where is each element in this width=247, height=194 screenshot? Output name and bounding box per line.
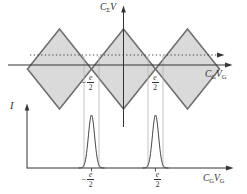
top-tick-pos-numerator: e <box>153 74 156 82</box>
top-y-axis-label-v: V <box>110 2 116 12</box>
top-x-axis-label-v: V <box>216 69 222 79</box>
top-tick-neg-numerator: e <box>89 74 92 82</box>
current-vertical-axis-arrowhead <box>25 104 30 111</box>
bottom-tick-neg-denominator: 2 <box>89 181 93 189</box>
top-vertical-axis-arrowhead <box>121 6 126 13</box>
bottom-tick-pos-numerator: e <box>156 171 159 179</box>
bottom-y-axis-label: I <box>10 100 14 111</box>
top-tick-pos-fraction: e 2 <box>152 74 159 91</box>
top-horizontal-axis-arrowhead <box>225 63 233 68</box>
bottom-tick-neg-fraction: e 2 <box>87 171 94 188</box>
top-tick-neg-sign: − <box>81 78 86 87</box>
top-y-axis-label: CΣV <box>100 2 116 12</box>
bottom-tick-pos-fraction: e 2 <box>154 171 161 188</box>
bottom-tick-neg-sign: − <box>81 175 86 184</box>
top-tick-neg-denominator: 2 <box>89 84 93 92</box>
bottom-tick-neg-numerator: e <box>89 171 92 179</box>
current-peak-right <box>143 115 169 168</box>
top-x-axis-label: CGVG <box>205 69 227 79</box>
top-x-axis-label-vsub: G <box>222 73 227 80</box>
bias-dotted-line-arrowhead <box>217 53 225 58</box>
top-tick-neg-fraction: e 2 <box>87 74 94 91</box>
bottom-tick-pos-denominator: 2 <box>156 181 160 189</box>
current-peak-left <box>79 115 105 168</box>
bottom-x-axis-label-vsub: G <box>220 177 225 184</box>
top-x-axis-label-csub: G <box>211 73 216 80</box>
bottom-x-axis-label-v: V <box>214 173 220 183</box>
bottom-x-axis-label: CGVG <box>203 173 225 183</box>
bottom-horizontal-axis-arrowhead <box>226 166 234 171</box>
coulomb-blockade-figure: CΣV CGVG − e 2 e 2 I CGVG − e 2 <box>0 0 247 194</box>
bottom-tick-pos-e-half: e 2 <box>154 171 161 188</box>
top-y-axis-label-sub: Σ <box>106 6 110 13</box>
top-tick-neg-e-half: − e 2 <box>81 74 94 91</box>
bottom-x-axis-label-csub: G <box>209 177 214 184</box>
figure-canvas <box>0 0 247 194</box>
bottom-tick-neg-e-half: − e 2 <box>81 171 94 188</box>
top-tick-pos-denominator: 2 <box>153 84 157 92</box>
top-tick-pos-e-half: e 2 <box>152 74 159 91</box>
coulomb-diamond-left <box>28 29 92 109</box>
